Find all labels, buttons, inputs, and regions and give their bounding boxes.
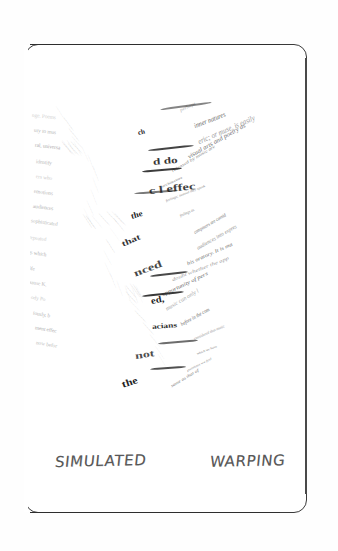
- ink-smear-arc: [150, 366, 186, 371]
- warped-text-fragment-faint: identify: [36, 158, 53, 166]
- warped-text-ribbon: —————: [109, 227, 120, 241]
- warped-text-fragment-faint: nge. Poems: [32, 112, 56, 120]
- warped-text-fragment-bold: acians: [151, 322, 176, 332]
- warped-text-fragment-faint: ury to mus: [34, 127, 57, 135]
- warped-text-fragment-faint: ral, universa: [35, 142, 61, 151]
- warped-text-fragment-faint: ers who: [35, 173, 52, 181]
- warped-text-ribbon: —————: [116, 280, 124, 295]
- warped-text-fragment-faint: emotions: [34, 188, 54, 196]
- warped-text-fragment-faint: audiences: [32, 203, 53, 212]
- warped-text-ribbon: —————: [92, 177, 100, 192]
- warped-text-fragment-bold: ch: [137, 127, 146, 136]
- handwritten-caption: SIMULATED WARPING: [55, 452, 285, 470]
- warped-text-fragment-faint: ment effec: [34, 324, 57, 334]
- warped-text-ribbon: —————: [134, 310, 146, 323]
- warped-text-block: perhapsinner natureseric; or muse, is ea…: [30, 95, 308, 415]
- page-left-edge-fade-inner: [25, 60, 27, 490]
- caption-word-warping: WARPING: [209, 451, 286, 470]
- page-top-edge: [30, 44, 280, 46]
- ink-smear-arc: [148, 145, 194, 152]
- warped-text-fragment: same as that of: [170, 368, 200, 388]
- warped-text-fragment: passions we feel: [186, 356, 212, 371]
- scanned-figure: perhapsinner natureseric; or muse, is ea…: [0, 0, 338, 551]
- page-bottom-edge: [30, 512, 280, 514]
- caption-word-simulated: SIMULATED: [54, 451, 147, 471]
- ink-smear-arc: [158, 339, 198, 345]
- warped-text-fragment-faint: life: [30, 265, 35, 272]
- warped-text-fragment-faint: aause K.: [30, 279, 47, 288]
- warped-text-fragment-faint: iously, b: [32, 309, 50, 318]
- warped-text-fragment-bold: the: [121, 374, 140, 389]
- warped-text-fragment-faint: now befor: [35, 339, 57, 349]
- warped-text-fragment-bold: that: [120, 233, 142, 249]
- warped-text-fragment: which we have: [197, 345, 218, 356]
- warped-text-fragment: feelings as: [179, 208, 195, 218]
- warped-text-fragment-faint: gs which: [30, 248, 47, 257]
- warped-text-fragment: before in the com: [179, 306, 210, 327]
- warped-text-fragment-faint: repeated: [30, 233, 47, 241]
- warped-text-fragment: considered that music: [194, 324, 226, 341]
- warped-text-fragment-bold: the: [130, 209, 144, 221]
- warped-text-fragment-bold: not: [134, 349, 155, 362]
- warped-text-fragment-faint: sophisticated: [30, 218, 57, 228]
- warped-text-fragment-faint: ody Po: [30, 294, 45, 302]
- warped-text-ribbon: —————: [105, 237, 115, 251]
- warped-text-fragment-bold: d do: [152, 155, 177, 167]
